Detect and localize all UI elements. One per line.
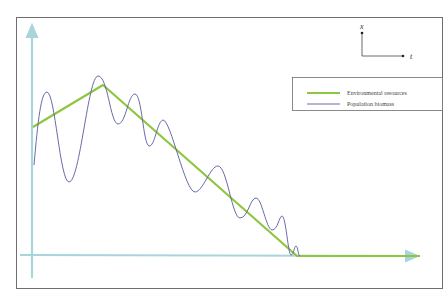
inset-y-arrow-icon — [361, 32, 364, 35]
inset-x-arrow-icon — [402, 55, 405, 58]
legend-label-biomass: Population biomass — [347, 101, 395, 107]
legend: Environmental resources Population bioma… — [293, 78, 443, 111]
figure-frame — [17, 18, 443, 289]
population-resources-diagram: Environmental resources Population bioma… — [0, 0, 448, 305]
inset-y-label: x — [359, 22, 364, 31]
legend-label-resources: Environmental resources — [347, 90, 407, 96]
